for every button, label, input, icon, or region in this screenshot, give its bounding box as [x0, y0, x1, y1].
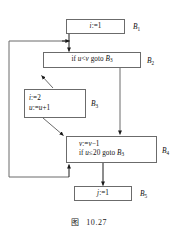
block-b5[interactable]: j:=1	[74, 186, 132, 201]
block-b4-statement-2: if u≤20 goto B3	[79, 149, 124, 160]
edge-b3-to-b4	[43, 118, 64, 136]
figure-caption: 图10.27	[0, 216, 178, 227]
block-b2[interactable]: if u<v goto B3	[43, 52, 141, 68]
block-b3[interactable]: i:=2 u:=u+1	[24, 89, 86, 118]
figure-container: i:=1 B1 if u<v goto B3 B2 i:=2 u:=u+1 B3…	[0, 0, 178, 241]
block-b5-label: B5	[140, 189, 147, 199]
edge-b2-to-b3	[42, 76, 54, 89]
flowchart-connectors	[0, 0, 178, 241]
block-b5-statement-1: j:=1	[97, 189, 109, 199]
block-b4-label: B4	[162, 146, 169, 156]
block-b2-label: B2	[147, 56, 154, 66]
block-b1-statement-1: i:=1	[90, 22, 102, 32]
caption-label: 图	[71, 218, 79, 227]
block-b3-statement-1: i:=2	[29, 94, 41, 104]
block-b2-statement-1: if u<v goto B3	[71, 55, 112, 66]
block-b4[interactable]: v:=v−1 if u≤20 goto B3	[66, 136, 157, 163]
block-b4-statement-1: v:=v−1	[79, 140, 99, 150]
caption-number: 10.27	[86, 218, 107, 227]
block-b3-label: B3	[91, 99, 98, 109]
block-b1[interactable]: i:=1	[66, 19, 125, 34]
block-b1-label: B1	[133, 22, 140, 32]
block-b3-statement-2: u:=u+1	[29, 104, 50, 114]
